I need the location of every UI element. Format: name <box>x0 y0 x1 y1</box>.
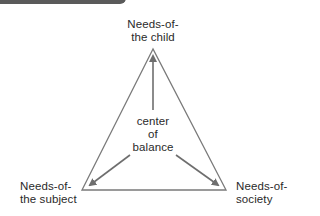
node-label-line: balance <box>123 141 183 154</box>
node-label-line: Needs-of- <box>236 180 287 193</box>
arrow-to-society <box>176 155 218 185</box>
arrow-to-subject <box>90 155 130 185</box>
node-label-line: Needs-of- <box>20 180 77 193</box>
node-label-line: the child <box>123 31 183 44</box>
node-needs-of-the-child: Needs-of- the child <box>123 18 183 44</box>
node-label-line: Needs-of- <box>123 18 183 31</box>
node-needs-of-society: Needs-of- society <box>236 180 287 206</box>
node-label-line: center <box>123 115 183 128</box>
node-label-line: of <box>123 128 183 141</box>
node-center-of-balance: center of balance <box>123 115 183 154</box>
node-label-line: society <box>236 193 287 206</box>
node-label-line: the subject <box>20 193 77 206</box>
node-needs-of-the-subject: Needs-of- the subject <box>20 180 77 206</box>
